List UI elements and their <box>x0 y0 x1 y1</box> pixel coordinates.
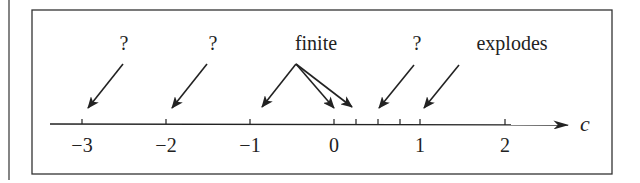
axis-variable-label: c <box>580 111 590 136</box>
tick-label-2: 2 <box>500 134 510 156</box>
arrow-finite-to-quarter <box>296 64 352 107</box>
tick-label-neg2: −2 <box>155 134 176 156</box>
annotation-label-question-3: ? <box>413 32 422 54</box>
tick-label-neg3: −3 <box>71 134 92 156</box>
arrow-finite-to-0 <box>296 64 334 108</box>
arrow-explodes-to-1 <box>424 65 459 108</box>
annotation-label-explodes: explodes <box>476 32 547 55</box>
annotation-label-question-2: ? <box>209 32 218 54</box>
tick-label-0: 0 <box>329 134 339 156</box>
arrow-question-to-half <box>379 65 414 108</box>
tick-label-1: 1 <box>415 134 425 156</box>
tick-labels: −3 −2 −1 0 1 2 <box>71 134 510 156</box>
arrow-question-to-neg2 <box>172 64 207 108</box>
annotation-label-finite: finite <box>295 32 337 54</box>
number-line-axis <box>50 124 568 125</box>
tick-label-neg1: −1 <box>239 134 260 156</box>
arrow-finite-to-neg1 <box>262 64 296 107</box>
annotation-label-question-1: ? <box>120 32 129 54</box>
diagram-canvas: c −3 −2 −1 0 1 2 ? ? finite ? explodes <box>0 0 640 183</box>
arrow-question-to-neg3 <box>88 64 123 108</box>
